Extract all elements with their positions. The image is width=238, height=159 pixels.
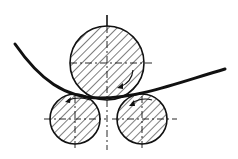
top-roll (70, 15, 155, 100)
bottom-left-roll (44, 94, 106, 149)
bottom-right-roll (112, 94, 177, 149)
three-roll-bending-diagram (0, 0, 238, 159)
